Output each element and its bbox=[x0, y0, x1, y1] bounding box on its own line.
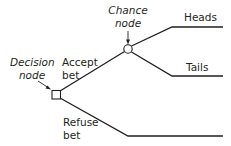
decision-node-label-line2: node bbox=[10, 69, 54, 82]
chance-node-label: Chance node bbox=[106, 4, 150, 30]
accept-bet-label-line2: bet bbox=[62, 69, 98, 82]
chance-arrow-head bbox=[126, 40, 130, 45]
tails-label: Tails bbox=[186, 61, 208, 74]
decision-node-label: Decision node bbox=[10, 56, 54, 82]
refuse-bet-label-line1: Refuse bbox=[63, 116, 99, 129]
decision-tree-diagram: Decision node Accept bet Chance node Hea… bbox=[0, 0, 231, 146]
refuse-bet-label-line2: bet bbox=[63, 129, 99, 142]
refuse-bet-label: Refuse bet bbox=[63, 116, 99, 142]
chance-node-label-line2: node bbox=[106, 17, 150, 30]
decision-node-square bbox=[52, 91, 61, 100]
chance-node-label-line1: Chance bbox=[106, 4, 150, 17]
decision-node-label-line1: Decision bbox=[10, 56, 54, 69]
accept-bet-label-line1: Accept bbox=[62, 56, 98, 69]
tails-branch-line bbox=[132, 52, 224, 76]
chance-node-circle bbox=[124, 45, 132, 53]
accept-bet-label: Accept bet bbox=[62, 56, 98, 82]
heads-label: Heads bbox=[184, 11, 217, 24]
